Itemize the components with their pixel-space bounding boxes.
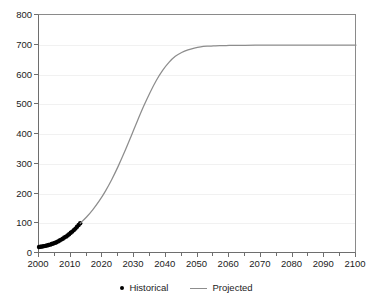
y-tick-label-700: 700 <box>0 40 32 49</box>
legend-line-icon <box>190 288 207 289</box>
legend-dot-icon <box>120 286 124 290</box>
chart-container: 0100200300400500600700800 20002010202020… <box>0 0 373 307</box>
x-tick-mark-2055 <box>212 253 213 256</box>
x-tick-mark-2065 <box>244 253 245 256</box>
x-tick-mark-2060 <box>228 253 229 257</box>
y-tick-label-400: 400 <box>0 129 32 138</box>
x-tick-mark-2025 <box>117 253 118 256</box>
legend-entry-projected[interactable]: Projected <box>190 283 252 293</box>
x-tick-mark-2050 <box>197 253 198 257</box>
x-tick-mark-2010 <box>70 253 71 257</box>
x-tick-mark-2045 <box>181 253 182 256</box>
x-tick-mark-2040 <box>165 253 166 257</box>
x-tick-mark-2085 <box>307 253 308 256</box>
x-tick-mark-2005 <box>54 253 55 256</box>
y-tick-label-800: 800 <box>0 10 32 19</box>
x-tick-mark-2070 <box>260 253 261 257</box>
x-tick-mark-2075 <box>276 253 277 256</box>
legend-label: Projected <box>212 283 252 293</box>
data-series-layer <box>39 15 356 253</box>
clipped-chart-title <box>0 0 373 3</box>
chart-legend: HistoricalProjected <box>0 283 373 293</box>
y-tick-label-600: 600 <box>0 70 32 79</box>
x-tick-mark-2080 <box>292 253 293 257</box>
series-points-historical <box>37 221 83 249</box>
series-line-projected <box>80 45 356 223</box>
y-tick-label-100: 100 <box>0 218 32 227</box>
legend-label: Historical <box>129 283 168 293</box>
legend-entry-historical[interactable]: Historical <box>120 283 168 293</box>
x-tick-mark-2095 <box>339 253 340 256</box>
plot-area <box>38 14 356 253</box>
x-tick-mark-2030 <box>133 253 134 257</box>
x-tick-label-2100: 2100 <box>335 259 373 269</box>
y-tick-label-200: 200 <box>0 189 32 198</box>
y-tick-label-500: 500 <box>0 99 32 108</box>
x-tick-mark-2015 <box>86 253 87 256</box>
y-tick-label-300: 300 <box>0 159 32 168</box>
y-tick-label-0: 0 <box>0 248 32 257</box>
x-tick-mark-2020 <box>101 253 102 257</box>
x-tick-mark-2000 <box>38 253 39 257</box>
x-tick-mark-2035 <box>149 253 150 256</box>
x-tick-mark-2090 <box>323 253 324 257</box>
x-tick-mark-2100 <box>355 253 356 257</box>
